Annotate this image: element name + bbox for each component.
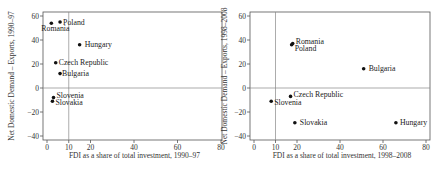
scatter-charts: −40−20020406001020406080FDI as a share o… <box>0 0 444 170</box>
y-tick-label: 40 <box>239 36 247 45</box>
point-label: Bulgaria <box>369 64 396 73</box>
y-tick-label: −20 <box>234 108 246 117</box>
data-point-slovakia: Slovakia <box>51 98 84 107</box>
x-tick-label: 80 <box>422 143 430 152</box>
point-label: Slovakia <box>55 98 83 107</box>
point-label: Czech Republic <box>59 58 109 67</box>
x-tick-label: 0 <box>45 143 49 152</box>
data-point-poland: Poland <box>290 43 317 53</box>
point-label: Bulgaria <box>62 69 89 78</box>
point-label: Slovakia <box>300 118 328 127</box>
y-tick-label: 60 <box>239 12 247 21</box>
point-label: Slovenia <box>274 98 302 107</box>
data-point-slovakia: Slovakia <box>293 118 328 127</box>
data-point-czech-republic: Czech Republic <box>54 58 109 67</box>
x-axis-label: FDI as a share of total investment, 1998… <box>273 151 412 160</box>
data-point-poland: Poland <box>58 18 85 27</box>
data-point-hungary: Hungary <box>394 118 427 127</box>
y-axis-label: Net Domestic Demand – Exports, 1998–2008 <box>220 7 229 144</box>
y-tick-label: 20 <box>32 60 40 69</box>
point-label: Hungary <box>400 118 427 127</box>
y-tick-label: −40 <box>27 132 39 141</box>
data-point-bulgaria: Bulgaria <box>362 64 396 73</box>
data-point-hungary: Hungary <box>78 40 112 49</box>
scatter-panel-2: −40−20020406001020406080FDI as a share o… <box>220 7 430 160</box>
y-tick-label: 0 <box>242 84 246 93</box>
point-label: Poland <box>295 44 317 53</box>
point-label: Hungary <box>85 40 112 49</box>
y-axis-label: Net Domestic Demand – Exports, 1990–97 <box>7 11 16 141</box>
y-tick-label: 0 <box>35 84 39 93</box>
point-label: Poland <box>63 18 85 27</box>
scatter-panel-1: −40−20020406001020406080FDI as a share o… <box>7 11 225 160</box>
y-tick-label: −20 <box>27 108 39 117</box>
data-point-slovenia: Slovenia <box>269 98 302 107</box>
x-tick-label: 0 <box>252 143 256 152</box>
y-tick-label: −40 <box>234 132 246 141</box>
y-tick-label: 40 <box>32 36 40 45</box>
y-tick-label: 60 <box>32 12 40 21</box>
x-axis-label: FDI as a share of total investment, 1990… <box>69 151 200 160</box>
data-point-bulgaria: Bulgaria <box>58 69 89 78</box>
y-tick-label: 20 <box>239 60 247 69</box>
